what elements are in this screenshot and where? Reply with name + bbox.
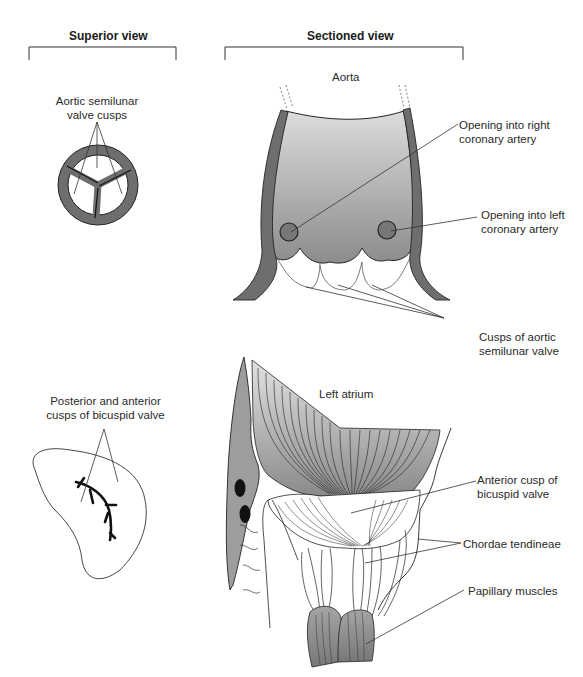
label-aortic-cusps-sectioned: Cusps of aortic semilunar valve xyxy=(479,330,559,358)
sectioned-view-header: Sectioned view xyxy=(307,29,394,43)
label-aortic-cusps-superior: Aortic semilunar valve cusps xyxy=(52,94,142,122)
label-papillary-muscles: Papillary muscles xyxy=(468,584,557,598)
sectioned-bracket xyxy=(225,47,463,60)
label-anterior-cusp: Anterior cusp of bicuspid valve xyxy=(477,473,558,501)
label-aorta: Aorta xyxy=(332,70,360,84)
label-left-atrium: Left atrium xyxy=(319,387,373,401)
aorta-section xyxy=(233,85,477,318)
bicuspid-valve-superior xyxy=(33,429,146,579)
label-right-coronary-opening: Opening into right coronary artery xyxy=(459,118,550,146)
label-chordae-tendineae: Chordae tendineae xyxy=(463,537,561,551)
left-atrium-section xyxy=(226,357,476,667)
label-left-coronary-opening: Opening into left coronary artery xyxy=(481,208,565,236)
label-bicuspid-cusps-superior: Posterior and anterior cusps of bicuspid… xyxy=(38,394,173,422)
superior-view-header: Superior view xyxy=(69,29,148,43)
aortic-valve-superior xyxy=(58,122,138,225)
superior-bracket xyxy=(29,47,176,60)
